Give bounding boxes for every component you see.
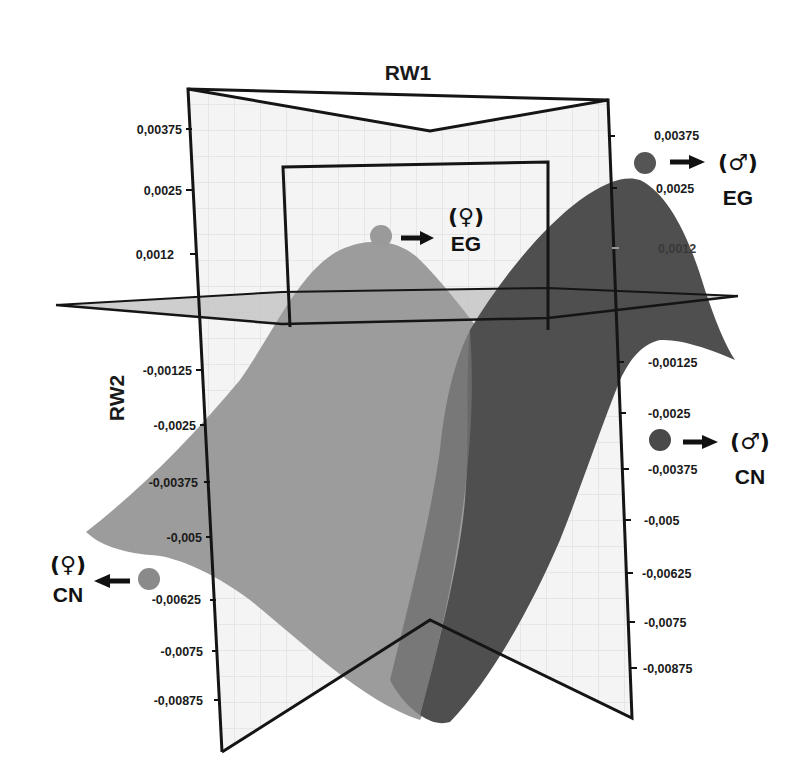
left-tick: 0,0012: [136, 248, 196, 262]
female-cn-symbol: (♀): [50, 552, 86, 577]
svg-text:0,0025: 0,0025: [656, 182, 694, 196]
svg-text:-0,0025: -0,0025: [648, 407, 690, 421]
right-tick: -0,00625: [626, 567, 691, 581]
male-eg-marker: [634, 152, 656, 174]
right-tick: -0,0025: [619, 407, 690, 421]
svg-text:-0,00125: -0,00125: [648, 356, 697, 370]
left-tick: -0,0075: [161, 645, 218, 659]
female-eg-marker: [370, 225, 392, 247]
svg-text:0,0012: 0,0012: [658, 242, 696, 256]
female-eg-group: EG: [451, 232, 481, 255]
male-eg-symbol: (♂): [718, 150, 758, 175]
svg-text:-0,00375: -0,00375: [149, 476, 198, 490]
svg-text:-0,0075: -0,0075: [644, 616, 686, 630]
female-cn-annotation: (♀) CN: [50, 552, 160, 606]
right-tick: -0,005: [624, 514, 679, 528]
arrow-right-icon: [683, 435, 718, 449]
right-tick: -0,00875: [630, 662, 692, 676]
svg-text:0,0025: 0,0025: [144, 184, 182, 198]
arrow-right-icon: [670, 155, 705, 169]
surface-plot-figure: RW1 RW2 0,00375 0,0025 0,0012 -0,00125 -…: [0, 0, 812, 773]
svg-text:-0,0025: -0,0025: [154, 419, 196, 433]
svg-text:-0,0075: -0,0075: [161, 645, 203, 659]
male-eg-group: EG: [723, 186, 753, 209]
svg-text:-0,005: -0,005: [644, 514, 679, 528]
arrow-left-icon: [94, 574, 130, 588]
left-tick: 0,0025: [144, 184, 192, 198]
male-cn-group: CN: [735, 465, 765, 488]
left-tick: -0,00875: [154, 694, 220, 708]
female-cn-group: CN: [53, 583, 83, 606]
left-tick: 0,00375: [137, 123, 192, 137]
male-cn-symbol: (♂): [730, 429, 770, 454]
right-tick: -0,0075: [628, 616, 686, 630]
svg-text:-0,00125: -0,00125: [143, 364, 192, 378]
svg-text:0,00375: 0,00375: [137, 123, 182, 137]
rw2-axis-title: RW2: [105, 375, 128, 421]
svg-text:0,00375: 0,00375: [654, 129, 699, 143]
rw1-axis-title: RW1: [385, 61, 432, 84]
svg-text:-0,005: -0,005: [167, 531, 202, 545]
left-tick: -0,00625: [152, 593, 216, 607]
svg-text:-0,00875: -0,00875: [643, 662, 692, 676]
svg-text:-0,00625: -0,00625: [642, 567, 691, 581]
svg-text:-0,00625: -0,00625: [152, 593, 201, 607]
left-tick: -0,00125: [143, 364, 202, 378]
right-tick: 0,00375: [608, 129, 699, 143]
male-cn-annotation: (♂) CN: [649, 429, 770, 488]
male-cn-marker: [649, 429, 671, 451]
female-eg-symbol: (♀): [448, 204, 484, 229]
svg-text:0,0012: 0,0012: [136, 248, 174, 262]
svg-text:-0,00375: -0,00375: [648, 463, 697, 477]
svg-text:-0,00875: -0,00875: [154, 694, 203, 708]
right-tick: -0,00375: [622, 463, 697, 477]
female-cn-marker: [138, 568, 160, 590]
